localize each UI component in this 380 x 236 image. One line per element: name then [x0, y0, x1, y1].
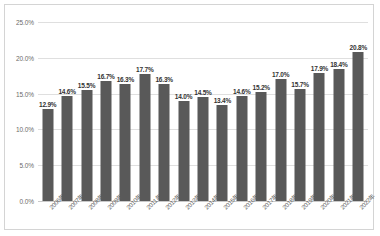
y-axis-tick-label: 5.0% — [20, 162, 34, 169]
bar[interactable] — [353, 52, 364, 201]
bar[interactable] — [314, 73, 325, 201]
bar-slot: 14.5% — [193, 22, 212, 201]
bar-value-label: 12.9% — [39, 101, 56, 108]
bar-slot: 14.6% — [232, 22, 251, 201]
x-axis-label-slot: 2009年 — [96, 203, 115, 236]
x-axis-label-slot: 2006年 — [38, 203, 57, 236]
x-axis-label-slot: 2020年 — [310, 203, 329, 236]
bar-value-label: 17.9% — [311, 65, 328, 72]
bar-slot: 12.9% — [38, 22, 57, 201]
chart-container: 0.0%5.0%10.0%15.0%20.0%25.0% 12.9%14.6%1… — [4, 4, 374, 230]
x-axis-label-slot: 2012年 — [154, 203, 173, 236]
bar-value-label: 18.4% — [330, 61, 347, 68]
bar[interactable] — [217, 105, 228, 201]
bar-value-label: 13.4% — [214, 97, 231, 104]
bar-series: 12.9%14.6%15.5%16.7%16.3%17.7%16.3%14.0%… — [38, 22, 368, 201]
bar[interactable] — [178, 101, 189, 201]
x-axis-label-slot: 2018年 — [271, 203, 290, 236]
bar[interactable] — [197, 97, 208, 201]
x-axis-label-slot: 2017年 — [252, 203, 271, 236]
bar-value-label: 16.3% — [117, 76, 134, 83]
x-axis-label-slot: 2021年 — [329, 203, 348, 236]
bar-value-label: 14.5% — [194, 89, 211, 96]
bar-value-label: 20.8% — [350, 44, 367, 51]
bar-value-label: 17.0% — [272, 71, 289, 78]
bar[interactable] — [159, 84, 170, 201]
bar[interactable] — [42, 109, 53, 201]
bar-value-label: 17.7% — [136, 66, 153, 73]
bar-value-label: 14.6% — [58, 88, 75, 95]
bar-value-label: 15.5% — [78, 82, 95, 89]
bar-value-label: 14.0% — [175, 93, 192, 100]
x-axis-label-slot: 2008年 — [77, 203, 96, 236]
bar[interactable] — [256, 92, 267, 201]
bar[interactable] — [81, 90, 92, 201]
bar-value-label: 16.3% — [155, 76, 172, 83]
y-axis-tick-label: 20.0% — [16, 54, 34, 61]
x-axis-label-slot: 2007年 — [57, 203, 76, 236]
x-axis-label-slot: 2015年 — [213, 203, 232, 236]
bar-value-label: 15.7% — [291, 81, 308, 88]
bar[interactable] — [62, 96, 73, 201]
bar-value-label: 14.6% — [233, 88, 250, 95]
x-axis-label-slot: 2022年 — [349, 203, 368, 236]
x-axis-label-slot: 2016年 — [232, 203, 251, 236]
bar-slot: 17.9% — [310, 22, 329, 201]
x-axis-tick-labels: 2006年2007年2008年2009年2010年2011年2012年2013年… — [38, 203, 368, 236]
bar-slot: 16.3% — [154, 22, 173, 201]
bar[interactable] — [333, 69, 344, 201]
y-axis-tick-label: 0.0% — [20, 198, 34, 205]
bar[interactable] — [100, 81, 111, 201]
y-axis-tick-label: 25.0% — [16, 19, 34, 26]
bar[interactable] — [139, 74, 150, 201]
bar[interactable] — [120, 84, 131, 201]
bar-slot: 17.7% — [135, 22, 154, 201]
bar-value-label: 15.2% — [253, 84, 270, 91]
bar[interactable] — [295, 89, 306, 201]
bar-slot: 15.7% — [290, 22, 309, 201]
x-axis-label-slot: 2013年 — [174, 203, 193, 236]
bar-slot: 16.7% — [96, 22, 115, 201]
x-axis-label-slot: 2011年 — [135, 203, 154, 236]
bar-slot: 13.4% — [213, 22, 232, 201]
y-axis-tick-label: 15.0% — [16, 90, 34, 97]
bar-value-label: 16.7% — [97, 73, 114, 80]
bar-slot: 20.8% — [349, 22, 368, 201]
bar-slot: 16.3% — [116, 22, 135, 201]
bar-slot: 14.0% — [174, 22, 193, 201]
y-axis-tick-label: 10.0% — [16, 126, 34, 133]
bar[interactable] — [236, 96, 247, 201]
x-axis-label-slot: 2010年 — [116, 203, 135, 236]
bar-slot: 17.0% — [271, 22, 290, 201]
bar-slot: 15.5% — [77, 22, 96, 201]
plot-area: 0.0%5.0%10.0%15.0%20.0%25.0% 12.9%14.6%1… — [38, 22, 368, 201]
bar[interactable] — [275, 79, 286, 201]
bar-slot: 15.2% — [252, 22, 271, 201]
x-axis-label-slot: 2014年 — [193, 203, 212, 236]
bar-slot: 14.6% — [57, 22, 76, 201]
bar-slot: 18.4% — [329, 22, 348, 201]
x-axis-label-slot: 2019年 — [290, 203, 309, 236]
